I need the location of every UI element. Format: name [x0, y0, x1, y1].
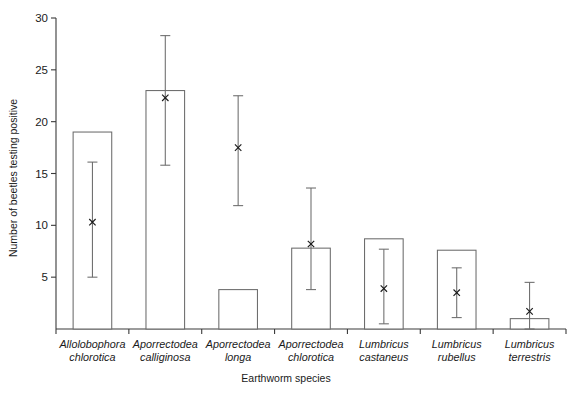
category-label-5: castaneus — [359, 351, 409, 363]
category-label-4: Aporrectodea — [278, 338, 344, 350]
category-label-6: Lumbricus — [432, 338, 482, 350]
earthworm-beetle-bar-chart: 51015202530 AllolobophorachloroticaAporr… — [0, 0, 571, 393]
x-axis-title: Earthworm species — [241, 372, 330, 384]
category-label-7: Lumbricus — [505, 338, 555, 350]
y-axis: 51015202530 — [35, 12, 56, 329]
category-label-1: Allolobophora — [58, 338, 125, 350]
category-label-2: Aporrectodea — [132, 338, 198, 350]
category-label-3: longa — [225, 351, 251, 363]
bar-3 — [219, 290, 258, 329]
category-label-7: terrestris — [509, 351, 552, 363]
y-tick-label: 25 — [35, 64, 48, 76]
y-tick-label: 15 — [35, 168, 48, 180]
y-tick-label: 5 — [42, 271, 48, 283]
chart-figure: 51015202530 AllolobophorachloroticaAporr… — [0, 0, 571, 393]
category-label-2: calliginosa — [140, 351, 190, 363]
category-label-3: Aporrectodea — [205, 338, 271, 350]
category-label-1: chlorotica — [69, 351, 115, 363]
category-label-6: rubellus — [438, 351, 476, 363]
y-tick-label: 20 — [35, 116, 48, 128]
y-axis-title: Number of beetles testing positive — [7, 99, 19, 257]
category-label-4: chlorotica — [288, 351, 334, 363]
y-tick-label: 10 — [35, 219, 48, 231]
x-axis — [56, 329, 566, 334]
category-labels: AllolobophorachloroticaAporrectodeacalli… — [58, 338, 555, 363]
category-label-5: Lumbricus — [359, 338, 409, 350]
y-tick-label: 30 — [35, 12, 48, 24]
